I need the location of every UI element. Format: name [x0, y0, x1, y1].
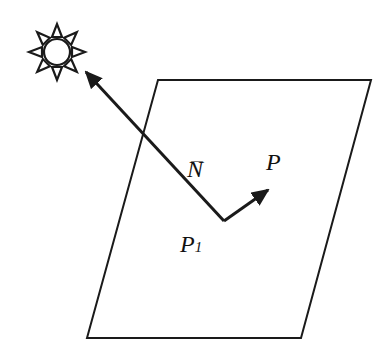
normal-label: N― [187, 157, 203, 181]
sun-icon [29, 24, 85, 80]
base-point-label: P1 [180, 232, 202, 256]
point-vector-arrow [224, 190, 268, 221]
diagram-canvas: N― P P1 [0, 0, 388, 360]
point-label: P [266, 150, 281, 174]
base-point-subscript: 1 [195, 239, 203, 255]
